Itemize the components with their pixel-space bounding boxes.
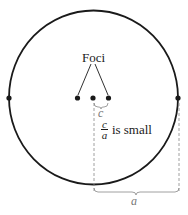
vertex-left (6, 95, 11, 100)
ratio-fraction: c a (101, 119, 108, 140)
vertex-right (175, 95, 180, 100)
foci-pointer-right (95, 64, 108, 95)
foci-label: Foci (82, 50, 105, 66)
ratio-label: c a is small (101, 119, 152, 140)
a-label: a (131, 194, 137, 209)
center-point (90, 95, 95, 100)
ratio-denominator: a (102, 130, 108, 140)
ellipse-diagram (0, 0, 188, 215)
focus-right (106, 95, 111, 100)
foci-pointer-left (78, 64, 91, 95)
ratio-text: is small (112, 122, 152, 138)
focus-left (75, 95, 80, 100)
